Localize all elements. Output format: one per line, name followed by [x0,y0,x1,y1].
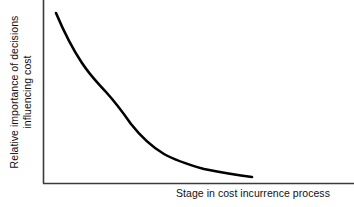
chart-figure: Relative importance of decisions influen… [0,0,354,207]
x-axis-label: Stage in cost incurrence process [176,187,330,199]
chart-background [0,0,354,207]
y-axis-label: Relative importance of decisions influen… [0,0,42,184]
y-axis-label-line2: influencing cost [21,16,34,169]
exponential-decay-chart [0,0,354,207]
y-axis-label-line1: Relative importance of decisions [8,16,21,169]
